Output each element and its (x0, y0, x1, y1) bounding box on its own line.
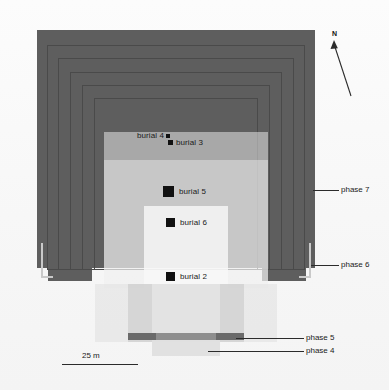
burial-label: burial 5 (179, 187, 206, 196)
burial-marker-6: burial 6 (166, 218, 207, 227)
burial-square-icon (166, 134, 170, 138)
phase-4-lower-block (152, 340, 220, 356)
phase-5-label: phase 5 (306, 333, 334, 342)
burial-square-icon (166, 272, 175, 281)
phase-6-bracket-left (41, 243, 53, 278)
burial-marker-2: burial 2 (166, 272, 207, 281)
north-arrow-icon (315, 30, 375, 100)
phase-7-label: phase 7 (341, 185, 369, 194)
burial-label: burial 4 (137, 131, 164, 140)
phase-5-accent-bar-center (156, 333, 216, 340)
scale-bar (62, 364, 138, 365)
north-arrow: N (315, 30, 375, 100)
burial-label: burial 6 (180, 218, 207, 227)
phase-4-leader-line (208, 351, 304, 352)
site-plan-figure: burial 4 burial 3 burial 5 burial 6 buri… (0, 0, 389, 390)
phase-7-leader-line (313, 190, 339, 191)
phase-4-label: phase 4 (306, 346, 334, 355)
burial-marker-3: burial 3 (168, 138, 203, 147)
north-arrow-label: N (332, 30, 337, 37)
burial-square-icon (168, 140, 173, 145)
phase-5-leader-line (236, 338, 304, 339)
burial-label: burial 3 (176, 138, 203, 147)
burial-label: burial 2 (180, 272, 207, 281)
phase-7-footing-left (48, 268, 92, 281)
burial-marker-5: burial 5 (163, 186, 206, 197)
phase-5-accent-bar-left (128, 333, 156, 340)
phase-6-leader-line (311, 265, 339, 266)
scale-bar-label: 25 m (82, 351, 100, 360)
phase-6-bracket-right (299, 243, 311, 278)
burial-marker-4: burial 4 (137, 131, 170, 140)
phase-6-label: phase 6 (341, 260, 369, 269)
burial-square-icon (166, 218, 175, 227)
burial-square-icon (163, 186, 174, 197)
